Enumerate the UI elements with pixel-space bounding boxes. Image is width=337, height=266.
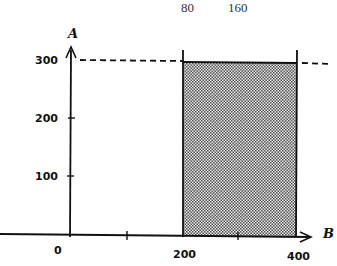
feasible-region-diagram: 80 160 A 300 200 100 B 0 200 400 bbox=[0, 0, 337, 266]
x-tick-label-200: 200 bbox=[173, 248, 196, 261]
y-tick-label-300: 300 bbox=[35, 54, 58, 67]
y-axis bbox=[70, 50, 71, 237]
x-axis-label: B bbox=[322, 226, 334, 241]
dashed-line-right bbox=[302, 63, 331, 64]
top-label-80: 80 bbox=[181, 0, 194, 15]
y-tick-label-100: 100 bbox=[35, 170, 58, 183]
region-top-edge bbox=[183, 62, 297, 63]
x-tick-label-400: 400 bbox=[287, 250, 310, 263]
y-tick-label-200: 200 bbox=[35, 112, 58, 125]
x-tick-label-0: 0 bbox=[54, 244, 62, 257]
y-axis-label: A bbox=[66, 26, 78, 41]
dashed-line-left bbox=[80, 60, 183, 61]
region-right-edge bbox=[296, 50, 297, 237]
shaded-region bbox=[183, 62, 296, 236]
top-label-160: 160 bbox=[228, 0, 248, 15]
